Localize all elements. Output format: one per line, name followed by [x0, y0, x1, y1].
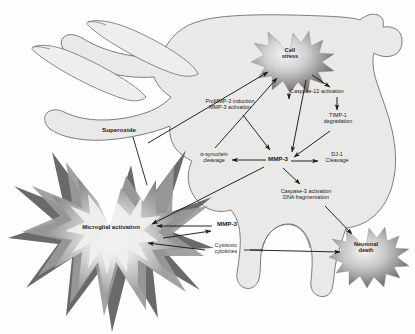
label-timp1-degradation: TIMP-1 degradation: [313, 112, 363, 125]
figure-canvas: Cell stress Microglial activation Neuron…: [0, 0, 415, 334]
node-label-microglial-activation: Microglial activation: [62, 224, 160, 230]
label-alpha-synuclein-cleavage: α-synuclein cleavage: [186, 151, 242, 164]
leader-superoxide: [133, 137, 147, 185]
pathway-diagram-svg: [0, 0, 415, 334]
label-cytotoxic-cytokines: Cytotoxic cytokines: [203, 242, 249, 255]
label-superoxide: Superoxide: [92, 127, 146, 133]
label-mmp3-microglia: MMP-3: [208, 221, 246, 227]
label-prommp3-induction: ProMMP-3 induction MMP-3 activation: [189, 98, 271, 111]
microglia-starburst-cluster: [8, 150, 214, 332]
node-label-cell-stress: Cell stress: [269, 47, 311, 59]
label-caspase3-activation: Caspase-3 activation DNA fragmentation: [262, 188, 350, 201]
label-mmp3-center: MMP-3: [258, 156, 298, 162]
label-caspase12-activation: Caspase-12 activation: [276, 88, 358, 94]
node-label-neuronal-death: Neuronal death: [344, 241, 388, 253]
label-dj1-cleavage: DJ-1 Cleavage: [315, 151, 359, 164]
